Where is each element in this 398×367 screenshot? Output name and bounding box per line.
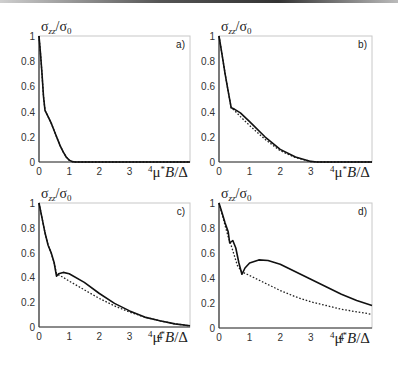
x-tick-label: 1: [247, 332, 253, 343]
x-tick-label: 0: [216, 166, 222, 177]
panel-b: 00.20.40.60.810123σzz/σ04μ*B/Δb): [201, 19, 372, 180]
x-tick-label: 2: [277, 332, 283, 343]
x-tick-label: 2: [277, 166, 283, 177]
plot-frame: [219, 36, 372, 162]
x-tick-label: 0: [216, 332, 222, 343]
panel-tag: d): [358, 206, 367, 217]
y-tick-label: 0.2: [201, 298, 215, 309]
solid-curve: [39, 36, 190, 162]
y-axis-label: σzz/σ0: [221, 186, 252, 203]
solid-curve: [219, 36, 372, 162]
y-tick-label: 0.6: [201, 81, 215, 92]
y-tick-label: 1: [29, 198, 35, 209]
panel-tag: c): [177, 206, 185, 217]
x-tick-label: 1: [66, 166, 72, 177]
dotted-curve: [219, 36, 372, 162]
y-tick-label: 0: [209, 323, 215, 334]
x-tick-label: 2: [97, 331, 103, 342]
plot-frame: [39, 203, 190, 327]
y-tick-label: 1: [29, 31, 35, 42]
x-axis-label: 4μ*B/Δ: [148, 329, 188, 345]
y-tick-label: 0.6: [21, 81, 35, 92]
y-tick-label: 0.4: [21, 272, 35, 283]
x-axis-label: 4μ*B/Δ: [330, 330, 370, 346]
dotted-curve: [39, 203, 190, 326]
panel-tag: a): [176, 39, 185, 50]
x-tick-label: 3: [308, 332, 314, 343]
y-tick-label: 0.2: [21, 297, 35, 308]
x-tick-label: 0: [36, 166, 42, 177]
y-tick-label: 0.8: [201, 223, 215, 234]
y-axis-label: σzz/σ0: [41, 19, 72, 36]
x-tick-label: 3: [127, 331, 133, 342]
panel-c: 00.20.40.60.8101234σzz/σ04μ*B/Δc): [21, 186, 190, 345]
panel-a: 00.20.40.60.810123σzz/σ04μ*B/Δa): [21, 19, 190, 180]
x-axis-label: 4μ*B/Δ: [148, 164, 188, 180]
y-tick-label: 0.6: [201, 248, 215, 259]
y-axis-label: σzz/σ0: [41, 186, 72, 203]
dotted-curve: [39, 36, 190, 162]
y-tick-label: 0.8: [21, 223, 35, 234]
y-axis-label: σzz/σ0: [221, 19, 252, 36]
y-tick-label: 0.4: [201, 107, 215, 118]
y-tick-label: 0: [29, 322, 35, 333]
solid-curve: [219, 203, 372, 306]
solid-curve: [39, 203, 190, 326]
y-tick-label: 0.8: [21, 56, 35, 67]
y-tick-label: 1: [209, 31, 215, 42]
y-tick-label: 0: [209, 157, 215, 168]
y-tick-label: 0: [29, 157, 35, 168]
y-tick-label: 0.4: [21, 107, 35, 118]
y-tick-label: 1: [209, 198, 215, 209]
y-tick-label: 0.4: [201, 273, 215, 284]
x-tick-label: 3: [127, 166, 133, 177]
y-tick-label: 0.8: [201, 56, 215, 67]
plot-frame: [219, 203, 372, 328]
y-tick-label: 0.2: [201, 132, 215, 143]
panel-d: 00.20.40.60.8101234σzz/σ04μ*B/Δd): [201, 186, 372, 346]
y-tick-label: 0.6: [21, 248, 35, 259]
x-tick-label: 2: [97, 166, 103, 177]
x-tick-label: 0: [36, 331, 42, 342]
figure: 00.20.40.60.810123σzz/σ04μ*B/Δa)00.20.40…: [0, 0, 398, 367]
x-axis-label: 4μ*B/Δ: [330, 164, 370, 180]
plot-frame: [39, 36, 190, 162]
y-tick-label: 0.2: [21, 132, 35, 143]
x-tick-label: 1: [66, 331, 72, 342]
panel-tag: b): [358, 39, 367, 50]
x-tick-label: 1: [247, 166, 253, 177]
x-tick-label: 3: [308, 166, 314, 177]
